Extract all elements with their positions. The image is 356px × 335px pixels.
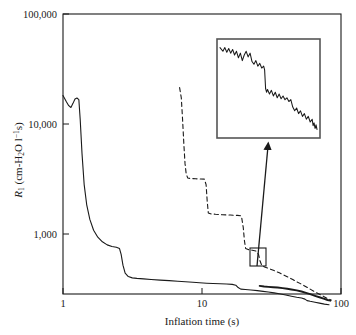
figure-container: 100,000 10,000 1,000 1 10 100 Inflation …	[0, 0, 356, 335]
chart-canvas: 100,000 10,000 1,000 1 10 100 Inflation …	[0, 0, 356, 335]
y-tick-label-10000: 10,000	[28, 119, 57, 130]
x-tick-label-10: 10	[197, 298, 208, 309]
y-axis-title: R1 (cm-H2O l−1s)	[12, 122, 26, 199]
inset-panel	[217, 39, 320, 138]
x-axis-title: Inflation time (s)	[165, 315, 240, 328]
y-tick-labels: 100,000 10,000 1,000	[23, 9, 57, 240]
x-tick-label-1: 1	[60, 298, 65, 309]
y-tick-label-1000: 1,000	[33, 229, 57, 240]
y-axis-ticks	[63, 14, 69, 234]
y-tick-label-100000: 100,000	[23, 9, 57, 20]
series-solid-branch	[260, 286, 331, 301]
y-axis-title-text: R1 (cm-H2O l−1s)	[12, 122, 26, 199]
x-axis-title-text: Inflation time (s)	[165, 315, 240, 328]
x-tick-label-100: 100	[333, 298, 349, 309]
